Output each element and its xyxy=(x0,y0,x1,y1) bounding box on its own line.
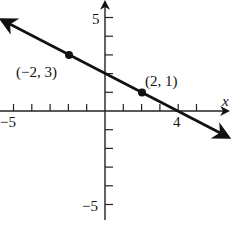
x-tick-label-neg5: −5 xyxy=(0,114,16,130)
x-axis-label: x xyxy=(221,93,229,109)
y-tick-label-neg5: −5 xyxy=(82,198,98,214)
point-2-1 xyxy=(138,89,146,97)
x-tick-label-4: 4 xyxy=(173,114,181,130)
point-label-2-1: (2, 1) xyxy=(145,73,178,90)
point-neg2-3 xyxy=(65,51,73,59)
coordinate-plane: (−2, 3) (2, 1) 5 −5 −5 4 x xyxy=(0,0,242,229)
y-tick-label-5: 5 xyxy=(92,11,100,27)
point-label-neg2-3: (−2, 3) xyxy=(16,64,57,81)
